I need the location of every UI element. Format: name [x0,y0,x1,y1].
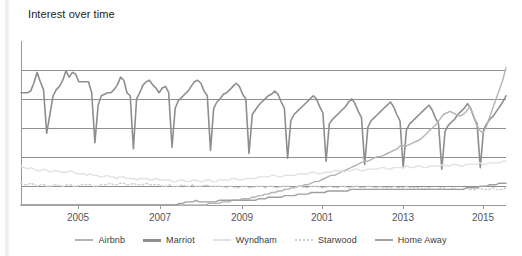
legend-swatch-starwood [295,239,313,241]
legend-label-wyndham: Wyndham [236,235,277,245]
legend-item-starwood[interactable]: Starwood [295,235,357,245]
series-line-marriot [21,71,506,169]
legend-swatch-marriot [143,239,161,242]
legend-swatch-airbnb [75,239,93,241]
legend-swatch-wyndham [213,239,231,241]
x-axis-tick-label-2005: 2005 [67,212,90,223]
legend-item-home-away[interactable]: Home Away [375,235,447,245]
legend-label-home-away: Home Away [398,235,447,245]
legend-label-marriot: Marriot [166,235,195,245]
legend-item-marriot[interactable]: Marriot [143,235,195,245]
series-line-wyndham [21,161,506,181]
plot-area: 200520072009200120132015 [0,0,522,232]
legend-swatch-homeaway [375,239,393,241]
x-axis-tick-label-2009: 2009 [231,212,254,223]
trends-chart-panel: Interest over time 200520072009200120132… [0,0,522,256]
legend-item-wyndham[interactable]: Wyndham [213,235,277,245]
x-axis-tick-label-2001: 2001 [311,212,334,223]
x-axis-tick-label-2015: 2015 [472,212,495,223]
legend-label-airbnb: Airbnb [98,235,125,245]
interest-over-time-chart: 200520072009200120132015 [0,0,522,232]
legend-item-airbnb[interactable]: Airbnb [75,235,125,245]
x-axis-tick-label-2013: 2013 [392,212,415,223]
chart-legend: AirbnbMarriotWyndhamStarwoodHome Away [0,230,522,250]
legend-label-starwood: Starwood [318,235,357,245]
x-axis-tick-label-2007: 2007 [149,212,172,223]
